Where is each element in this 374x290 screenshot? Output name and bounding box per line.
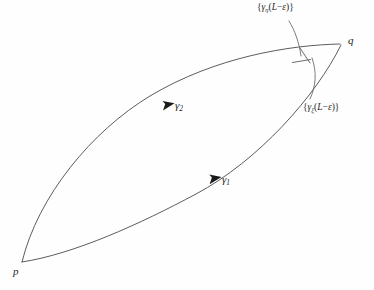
gamma-2-subscript: 2 — [179, 104, 183, 113]
xi-close-brace: } — [335, 102, 340, 112]
eta-close-brace: } — [289, 2, 294, 12]
geodesic-bigon-svg — [0, 0, 374, 290]
annotation-gamma-xi: {γξ(L−ε)} — [303, 103, 339, 113]
annotation-gamma-eta: {γη(L−ε)} — [257, 3, 294, 13]
xi-subscript: ξ — [311, 106, 314, 113]
gamma-1-subscript: 1 — [226, 178, 230, 187]
eta-subscript: η — [265, 6, 268, 13]
point-label-q: q — [348, 35, 354, 46]
curve-gamma-1 — [22, 45, 341, 262]
point-label-p: p — [13, 266, 19, 277]
curve-gamma-2 — [22, 44, 340, 262]
curve-label-gamma-1: γ1 — [222, 174, 230, 185]
curve-label-gamma-2: γ2 — [175, 100, 183, 111]
figure-canvas: p q γ2 γ1 {γη(L−ε)} {γξ(L−ε)} — [0, 0, 374, 290]
leader-line-eta — [289, 21, 301, 56]
arrowhead-gamma-2 — [162, 101, 174, 111]
